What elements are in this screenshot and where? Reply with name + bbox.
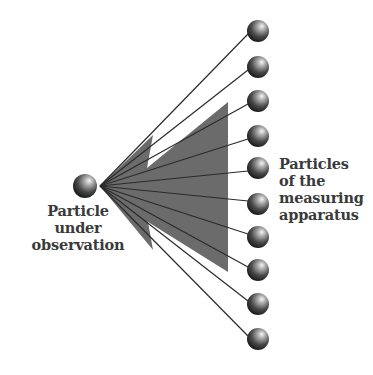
apparatus-particle-sphere (247, 90, 269, 112)
label-line: measuring (279, 189, 373, 206)
apparatus-particle-sphere (247, 56, 269, 78)
apparatus-particle-sphere (247, 226, 269, 248)
label-line: under (18, 219, 138, 236)
apparatus-particle-sphere (247, 125, 269, 147)
label-line: Particle (18, 202, 138, 219)
apparatus-particles (247, 20, 269, 350)
apparatus-particle-sphere (247, 259, 269, 281)
label-line: apparatus (279, 206, 373, 223)
label-line: observation (18, 236, 138, 253)
observed-particle-sphere (73, 174, 97, 198)
apparatus-particle-sphere (247, 157, 269, 179)
apparatus-particle-sphere (247, 328, 269, 350)
observed-particle-label: Particle under observation (18, 202, 138, 253)
label-line: Particles (279, 155, 373, 172)
apparatus-particle-sphere (247, 293, 269, 315)
label-line: of the (279, 172, 373, 189)
apparatus-particle-sphere (247, 20, 269, 42)
apparatus-particle-sphere (247, 193, 269, 215)
apparatus-label: Particles of the measuring apparatus (279, 155, 373, 223)
